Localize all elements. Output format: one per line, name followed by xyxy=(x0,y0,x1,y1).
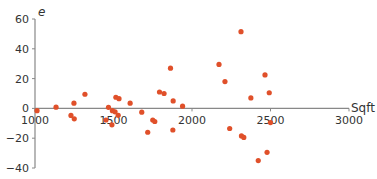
data-point xyxy=(157,89,162,94)
data-point xyxy=(116,96,121,101)
x-tick-label: 1000 xyxy=(21,114,49,127)
y-tick-label: 40 xyxy=(15,43,29,56)
data-point xyxy=(168,66,173,71)
data-point xyxy=(264,150,269,155)
data-point xyxy=(256,158,261,163)
axes xyxy=(32,19,349,168)
data-point xyxy=(53,105,58,110)
data-point xyxy=(109,122,114,127)
data-point xyxy=(216,62,221,67)
data-point xyxy=(170,127,175,132)
y-tick-label: 60 xyxy=(15,13,29,26)
data-point xyxy=(180,104,185,109)
data-point xyxy=(161,91,166,96)
data-point xyxy=(82,92,87,97)
data-point xyxy=(238,29,243,34)
data-point xyxy=(145,130,150,135)
data-point xyxy=(248,95,253,100)
data-point xyxy=(222,79,227,84)
data-point xyxy=(171,98,176,103)
data-point xyxy=(267,90,272,95)
y-axis-label: e xyxy=(38,5,45,19)
x-tick-label: 3000 xyxy=(335,114,363,127)
data-point xyxy=(241,135,246,140)
y-tick-label: 20 xyxy=(15,73,29,86)
data-point xyxy=(103,117,108,122)
data-point xyxy=(34,108,39,113)
x-tick-label: 2000 xyxy=(178,114,206,127)
data-point xyxy=(128,101,133,106)
data-point xyxy=(268,120,273,125)
data-points xyxy=(34,29,273,163)
y-tick-label: −20 xyxy=(6,132,29,145)
data-point xyxy=(139,110,144,115)
data-point xyxy=(152,119,157,124)
scatter-chart: −40−20020406010001500200025003000 Sqft e xyxy=(0,0,377,179)
tick-labels: −40−20020406010001500200025003000 xyxy=(6,13,363,175)
data-point xyxy=(227,126,232,131)
x-axis-label: Sqft xyxy=(351,101,375,115)
data-point xyxy=(262,72,267,77)
data-point xyxy=(72,116,77,121)
data-point xyxy=(71,101,76,106)
data-point xyxy=(116,113,121,118)
y-tick-label: −40 xyxy=(6,162,29,175)
